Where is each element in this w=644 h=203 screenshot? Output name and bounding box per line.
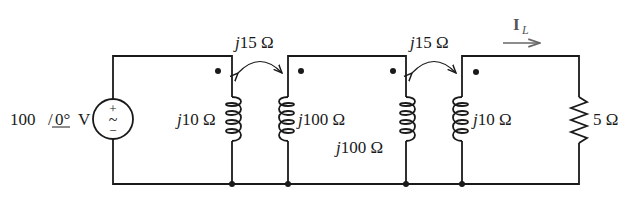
coil-2-label: j100 Ω xyxy=(296,110,345,129)
mutual-coupling-1: j15 Ω xyxy=(233,33,282,73)
mutual-coupling-2: j15 Ω xyxy=(408,33,456,73)
coil-4 xyxy=(453,69,479,141)
svg-text:−: − xyxy=(109,123,116,138)
coil-2 xyxy=(279,68,304,141)
coil-3 xyxy=(390,68,415,141)
load-resistor-label: 5 Ω xyxy=(593,110,618,129)
mutual-1-label: j15 Ω xyxy=(233,33,274,52)
source-label: 100 / 0° V xyxy=(10,110,91,129)
polarity-dot xyxy=(215,68,221,74)
voltage-source: + ~ − xyxy=(93,99,133,139)
svg-text:0°: 0° xyxy=(55,110,70,129)
coil-3-label: j100 Ω xyxy=(334,138,383,157)
svg-text:/: / xyxy=(48,110,53,129)
svg-text:V: V xyxy=(78,110,91,129)
polarity-dot xyxy=(298,68,304,74)
svg-text:L: L xyxy=(521,23,529,37)
polarity-dot xyxy=(390,68,396,74)
coil-1-label: j10 Ω xyxy=(175,110,216,129)
svg-text:I: I xyxy=(513,15,520,34)
coil-4-label: j10 Ω xyxy=(471,110,512,129)
load-resistor xyxy=(571,97,587,143)
svg-text:100: 100 xyxy=(10,110,36,129)
mutual-2-label: j15 Ω xyxy=(408,33,449,52)
load-current-indicator: I L xyxy=(503,15,540,43)
circuit-diagram: + ~ − 100 / 0° V j10 Ω j100 Ω j100 Ω xyxy=(0,0,644,203)
polarity-dot xyxy=(473,69,479,75)
coil-1 xyxy=(215,68,241,141)
